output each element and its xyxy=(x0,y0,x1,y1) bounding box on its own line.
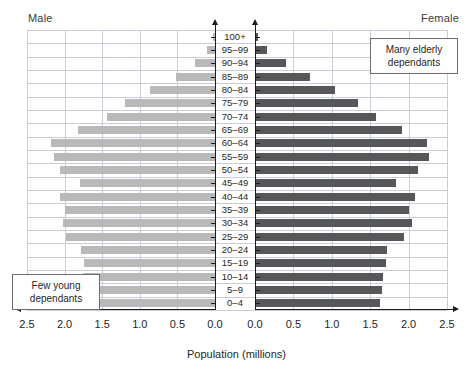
age-group-label-55-59: 55–59 xyxy=(215,151,255,162)
age-group-label-50-54: 50–54 xyxy=(215,164,255,175)
x-tick-label-male-1.5: 1.5 xyxy=(95,318,110,330)
x-tick-label-female-0.0: 0.0 xyxy=(247,318,262,330)
bar-female-45-49 xyxy=(255,179,396,187)
x-tick-label-female-2.5: 2.5 xyxy=(439,318,454,330)
age-group-label-60-64: 60–64 xyxy=(215,137,255,148)
bar-female-35-39 xyxy=(255,206,409,214)
tick-mark xyxy=(256,170,260,171)
tick-mark xyxy=(256,263,260,264)
tick-mark xyxy=(256,117,260,118)
tick-mark xyxy=(256,183,260,184)
annotation-young-line2: dependants xyxy=(20,292,92,305)
age-group-label-80-84: 80–84 xyxy=(215,84,255,95)
tick-mark xyxy=(256,157,260,158)
bar-male-20-24 xyxy=(81,246,215,254)
bar-male-70-74 xyxy=(107,113,215,121)
tick-mark xyxy=(256,130,260,131)
tick-mark xyxy=(256,63,260,64)
age-group-label-85-89: 85–89 xyxy=(215,71,255,82)
age-group-label-20-24: 20–24 xyxy=(215,244,255,255)
age-group-label-10-14: 10–14 xyxy=(215,271,255,282)
bar-female-30-34 xyxy=(255,219,412,227)
x-tick-label-male-2.0: 2.0 xyxy=(57,318,72,330)
x-tick-label-female-1.5: 1.5 xyxy=(363,318,378,330)
bar-male-30-34 xyxy=(63,219,215,227)
tick-mark xyxy=(256,210,260,211)
bar-male-80-84 xyxy=(150,86,215,94)
tick-mark xyxy=(256,290,260,291)
x-tick-label-female-2.0: 2.0 xyxy=(401,318,416,330)
bar-male-40-44 xyxy=(60,193,215,201)
female-axis-caption: Female xyxy=(421,12,459,24)
bar-male-25-29 xyxy=(66,233,215,241)
gridline-vertical xyxy=(27,30,28,310)
age-group-label-70-74: 70–74 xyxy=(215,111,255,122)
bar-female-10-14 xyxy=(255,273,383,281)
age-group-label-25-29: 25–29 xyxy=(215,231,255,242)
x-axis-title: Population (millions) xyxy=(0,348,473,360)
bar-male-15-19 xyxy=(84,259,215,267)
x-tick-label-female-1.0: 1.0 xyxy=(324,318,339,330)
age-group-label-45-49: 45–49 xyxy=(215,177,255,188)
annotation-few-young-dependants: Few young dependants xyxy=(12,274,100,310)
bar-female-0-4 xyxy=(255,299,380,307)
age-group-label-90-94: 90–94 xyxy=(215,57,255,68)
age-group-label-30-34: 30–34 xyxy=(215,217,255,228)
bar-female-80-84 xyxy=(255,86,335,94)
age-group-label-65-69: 65–69 xyxy=(215,124,255,135)
tick-mark xyxy=(256,277,260,278)
male-axis-caption: Male xyxy=(28,12,53,24)
tick-mark xyxy=(256,197,260,198)
bar-male-65-69 xyxy=(78,126,215,134)
age-group-label-15-19: 15–19 xyxy=(215,257,255,268)
bar-male-60-64 xyxy=(51,139,215,147)
age-group-label-40-44: 40–44 xyxy=(215,191,255,202)
bar-female-20-24 xyxy=(255,246,387,254)
tick-mark xyxy=(256,50,260,51)
bar-female-60-64 xyxy=(255,139,427,147)
age-group-label-100+: 100+ xyxy=(215,31,255,42)
female-vertical-axis xyxy=(255,24,256,310)
tick-mark xyxy=(256,103,260,104)
age-group-label-95-99: 95–99 xyxy=(215,44,255,55)
x-tick-label-male-2.5: 2.5 xyxy=(19,318,34,330)
bar-female-75-79 xyxy=(255,99,358,107)
bar-female-85-89 xyxy=(255,73,310,81)
bar-male-10-14 xyxy=(83,273,215,281)
bar-male-55-59 xyxy=(54,153,215,161)
bar-male-85-89 xyxy=(176,73,215,81)
bar-female-65-69 xyxy=(255,126,402,134)
tick-mark xyxy=(256,303,260,304)
age-group-label-0-4: 0–4 xyxy=(215,297,255,308)
tick-mark xyxy=(256,237,260,238)
age-group-label-75-79: 75–79 xyxy=(215,97,255,108)
age-group-label-5-9: 5–9 xyxy=(215,284,255,295)
bar-male-0-4 xyxy=(86,299,215,307)
bar-female-5-9 xyxy=(255,286,382,294)
annotation-elderly-line2: dependants xyxy=(378,56,450,69)
gridline-horizontal xyxy=(27,310,447,311)
bar-female-25-29 xyxy=(255,233,404,241)
tick-mark xyxy=(256,143,260,144)
x-tick-label-female-0.5: 0.5 xyxy=(286,318,301,330)
age-group-label-35-39: 35–39 xyxy=(215,204,255,215)
x-tick-label-male-0.0: 0.0 xyxy=(207,318,222,330)
bar-male-5-9 xyxy=(81,286,215,294)
bar-female-50-54 xyxy=(255,166,418,174)
bar-male-35-39 xyxy=(65,206,215,214)
bar-male-45-49 xyxy=(80,179,215,187)
tick-mark xyxy=(256,250,260,251)
bar-male-75-79 xyxy=(125,99,215,107)
annotation-young-line1: Few young xyxy=(20,279,92,292)
bar-female-55-59 xyxy=(255,153,429,161)
tick-mark xyxy=(256,37,260,38)
annotation-elderly-line1: Many elderly xyxy=(378,43,450,56)
annotation-many-elderly-dependants: Many elderly dependants xyxy=(370,38,458,74)
x-tick-label-male-0.5: 0.5 xyxy=(170,318,185,330)
bar-female-70-74 xyxy=(255,113,376,121)
tick-mark xyxy=(256,77,260,78)
tick-mark xyxy=(256,223,260,224)
tick-mark xyxy=(256,90,260,91)
bar-female-15-19 xyxy=(255,259,386,267)
female-horizontal-axis xyxy=(255,309,453,310)
